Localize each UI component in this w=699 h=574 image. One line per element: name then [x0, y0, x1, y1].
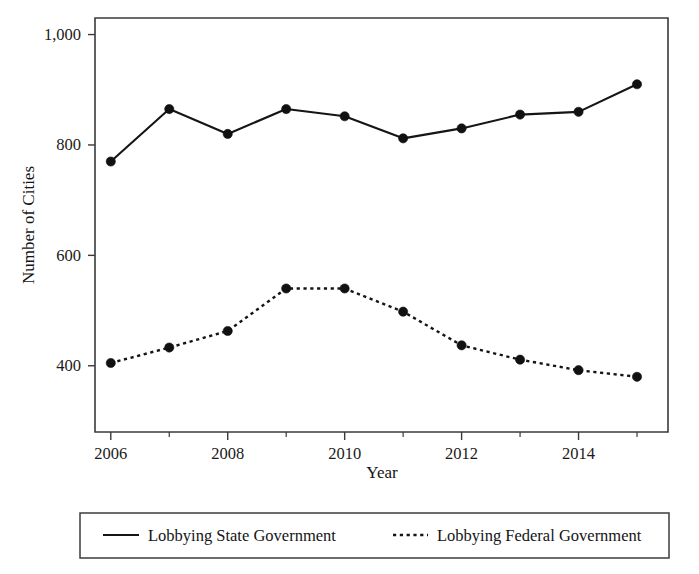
- legend-label-federal: Lobbying Federal Government: [437, 526, 642, 545]
- data-point-marker: [223, 326, 232, 335]
- data-point-marker: [282, 104, 291, 113]
- y-axis-title: Number of Cities: [19, 166, 38, 284]
- data-point-marker: [106, 157, 115, 166]
- data-point-marker: [457, 124, 466, 133]
- y-tick-label: 800: [56, 135, 81, 154]
- y-tick-label: 400: [56, 356, 81, 375]
- x-tick-label: 2010: [328, 444, 361, 463]
- data-point-marker: [282, 284, 291, 293]
- x-tick-label: 2008: [211, 444, 244, 463]
- chart-figure: 4006008001,000 20062008201020122014 Year…: [0, 0, 699, 574]
- data-point-marker: [106, 358, 115, 367]
- data-point-marker: [457, 341, 466, 350]
- y-tick-label: 1,000: [44, 25, 81, 44]
- chart-background: [0, 0, 699, 574]
- data-point-marker: [165, 343, 174, 352]
- legend-label-state: Lobbying State Government: [148, 526, 336, 545]
- data-point-marker: [340, 112, 349, 121]
- data-point-marker: [632, 372, 641, 381]
- data-point-marker: [515, 110, 524, 119]
- data-point-marker: [165, 104, 174, 113]
- data-point-marker: [399, 134, 408, 143]
- x-axis-title: Year: [366, 463, 398, 482]
- data-point-marker: [223, 129, 232, 138]
- x-tick-label: 2006: [94, 444, 127, 463]
- data-point-marker: [399, 307, 408, 316]
- line-chart: 4006008001,000 20062008201020122014 Year…: [0, 0, 699, 574]
- y-tick-label: 600: [56, 246, 81, 265]
- x-tick-label: 2014: [562, 444, 595, 463]
- data-point-marker: [340, 284, 349, 293]
- data-point-marker: [574, 366, 583, 375]
- data-point-marker: [632, 80, 641, 89]
- x-tick-label: 2012: [445, 444, 478, 463]
- chart-legend: Lobbying State Government Lobbying Feder…: [80, 513, 669, 558]
- data-point-marker: [574, 107, 583, 116]
- data-point-marker: [515, 355, 524, 364]
